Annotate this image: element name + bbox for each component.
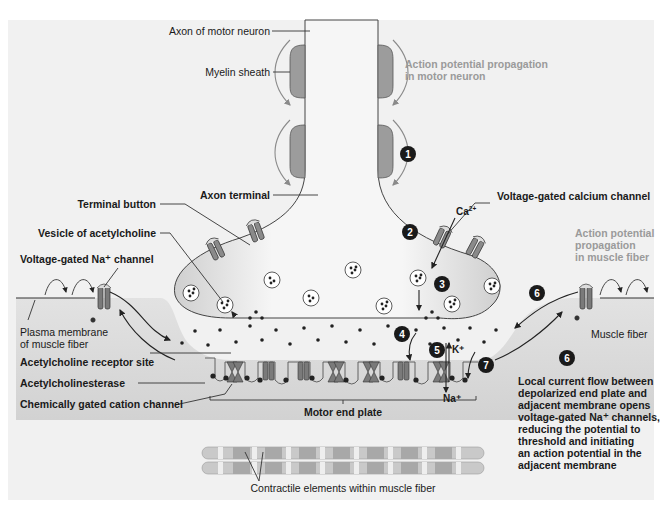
- step-badge-6-caption: 6: [559, 350, 575, 366]
- label-terminal-button: Terminal button: [77, 198, 156, 210]
- svg-text:5: 5: [434, 345, 440, 356]
- label-ap-muscle-1: Action potential: [575, 227, 654, 239]
- label-plasma-membrane-1: Plasma membrane: [20, 326, 108, 338]
- sodium-ion-label: Na⁺: [443, 393, 461, 404]
- svg-text:depolarized end plate and: depolarized end plate and: [518, 387, 647, 399]
- step-badge-2: 2: [402, 224, 418, 240]
- svg-text:1: 1: [405, 149, 411, 160]
- svg-text:adjacent membrane: adjacent membrane: [518, 459, 617, 471]
- label-chemically-gated-cation-channel: Chemically gated cation channel: [20, 398, 183, 410]
- step6-caption: Local current flow between depolarized e…: [518, 375, 660, 471]
- label-plasma-membrane-2: of muscle fiber: [20, 338, 89, 350]
- label-axon-terminal: Axon terminal: [200, 189, 270, 201]
- label-ap-motor-2: in motor neuron: [405, 70, 486, 82]
- svg-text:7: 7: [483, 360, 489, 371]
- label-ap-muscle-3: in muscle fiber: [575, 251, 649, 263]
- svg-text:2: 2: [407, 227, 413, 238]
- label-ap-motor-1: Action potential propagation: [405, 58, 548, 70]
- label-muscle-fiber: Muscle fiber: [591, 328, 648, 340]
- step-badge-1: 1: [400, 146, 416, 162]
- neuromuscular-junction-diagram: 1 2 3 4 5 6 6 7 Ca2+ K⁺ Na⁺ Axon of moto…: [0, 0, 667, 515]
- label-acetylcholinesterase: Acetylcholinesterase: [20, 377, 125, 389]
- step-badge-3: 3: [434, 276, 450, 292]
- label-voltage-gated-na-channel: Voltage-gated Na⁺ channel: [20, 253, 154, 265]
- label-myelin-sheath: Myelin sheath: [205, 66, 270, 78]
- svg-text:3: 3: [439, 279, 445, 290]
- svg-text:an action potential in the: an action potential in the: [518, 447, 642, 459]
- step-badge-4: 4: [394, 326, 410, 342]
- label-ach-receptor-site: Acetylcholine receptor site: [20, 356, 154, 368]
- potassium-ion-label: K⁺: [452, 344, 464, 355]
- label-axon-of-motor-neuron: Axon of motor neuron: [169, 25, 270, 37]
- svg-text:6: 6: [564, 353, 570, 364]
- label-ap-muscle-2: propagation: [575, 239, 636, 251]
- step-badge-5: 5: [429, 342, 445, 358]
- step-badge-7: 7: [478, 357, 494, 373]
- label-vesicle-of-acetylcholine: Vesicle of acetylcholine: [38, 227, 156, 239]
- svg-text:Local current flow between: Local current flow between: [518, 375, 653, 387]
- label-motor-end-plate: Motor end plate: [304, 406, 382, 418]
- svg-text:4: 4: [399, 329, 405, 340]
- svg-text:threshold and initiating: threshold and initiating: [518, 435, 634, 447]
- svg-text:reducing the potential to: reducing the potential to: [518, 423, 641, 435]
- label-contractile-elements: Contractile elements within muscle fiber: [251, 482, 436, 494]
- svg-text:voltage-gated Na⁺ channels,: voltage-gated Na⁺ channels,: [518, 411, 660, 423]
- label-voltage-gated-calcium-channel: Voltage-gated calcium channel: [497, 190, 650, 202]
- svg-text:adjacent membrane opens: adjacent membrane opens: [518, 399, 651, 411]
- step-badge-6-upper: 6: [529, 285, 545, 301]
- svg-text:6: 6: [534, 288, 540, 299]
